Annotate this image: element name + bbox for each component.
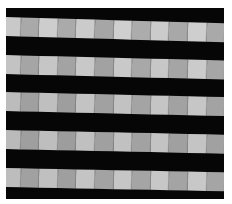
stripe-segment xyxy=(150,59,169,78)
stripe-segment xyxy=(39,56,58,75)
light-stripe xyxy=(6,92,224,116)
stripe-segment xyxy=(188,22,207,42)
stripe-segment xyxy=(151,171,170,190)
stripe-segment xyxy=(58,169,77,188)
stripe-segment xyxy=(206,172,224,191)
stripe-segment xyxy=(206,60,224,79)
stripe-segment xyxy=(76,94,95,113)
stripe-segment xyxy=(95,20,114,40)
stripe-segment xyxy=(132,58,151,77)
stripe-segment xyxy=(188,172,207,191)
stripe-segment xyxy=(58,131,77,150)
stripe-segment xyxy=(95,132,114,151)
stripe-segment xyxy=(20,130,39,149)
stripe-segment xyxy=(113,95,132,114)
stripe-segment xyxy=(113,170,132,189)
stripe-segment xyxy=(76,57,95,76)
stripe-segment xyxy=(206,97,224,116)
stripe-segment xyxy=(132,95,151,114)
stripe-segment xyxy=(6,130,21,149)
stripe-segment xyxy=(6,168,21,187)
stripe-segment xyxy=(132,171,151,190)
stripe-segment xyxy=(188,60,207,79)
stripe-segment xyxy=(113,132,132,151)
stripe-segment xyxy=(76,19,95,39)
stripe-segment xyxy=(6,17,21,37)
stripe-segment xyxy=(20,168,39,187)
stripe-segment xyxy=(6,92,21,111)
stripe-segment xyxy=(169,59,188,78)
stripe-segment xyxy=(188,96,207,115)
stripe-segment xyxy=(20,92,39,111)
stripe-segment xyxy=(95,57,114,76)
light-stripe xyxy=(6,130,224,154)
stripe-segment xyxy=(132,133,151,152)
stripe-segment xyxy=(151,133,170,152)
stripe-segment xyxy=(150,21,169,41)
stripe-segment xyxy=(132,21,151,41)
stripe-segment xyxy=(150,95,169,114)
stripe-segment xyxy=(206,23,224,43)
stripe-segment xyxy=(39,18,58,38)
stripe-segment xyxy=(76,169,95,188)
stripe-segment xyxy=(58,93,77,112)
stripe-segment xyxy=(6,55,21,74)
stripe-segment xyxy=(39,93,58,112)
stripe-segment xyxy=(39,131,58,150)
stripe-segment xyxy=(57,19,76,39)
stripe-segment xyxy=(113,58,132,77)
stripe-segment xyxy=(58,56,77,75)
stripe-segment xyxy=(76,132,95,151)
stripe-segment xyxy=(20,55,39,74)
light-stripe xyxy=(6,17,224,42)
stripe-segment xyxy=(169,22,188,42)
stripe-segment xyxy=(206,134,224,153)
stripe-segment xyxy=(39,169,58,188)
stripe-segment xyxy=(169,96,188,115)
stripe-segment xyxy=(95,94,114,113)
stripe-segment xyxy=(113,20,132,40)
light-stripe xyxy=(6,168,224,191)
stripe-segment xyxy=(188,134,207,153)
stripe-segment xyxy=(95,170,114,189)
light-stripe xyxy=(6,55,224,80)
stripe-segment xyxy=(169,171,188,190)
stripe-segment xyxy=(169,134,188,153)
woven-stripes-photo xyxy=(6,8,224,199)
stripe-segment xyxy=(20,18,39,38)
